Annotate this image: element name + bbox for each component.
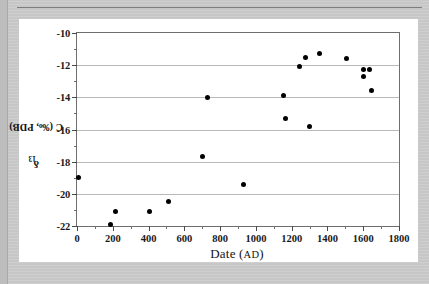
x-axis-tick-label: 1800 [389, 233, 410, 244]
data-point [166, 199, 171, 204]
y-axis-tick-label: -18 [57, 156, 70, 167]
y-axis-tick [72, 130, 77, 131]
y-axis-tick-label: -22 [57, 221, 70, 232]
gridline [77, 194, 399, 195]
data-point [344, 56, 349, 61]
y-axis-minor-tick [74, 113, 77, 114]
data-point [361, 67, 366, 72]
x-axis-minor-tick [381, 226, 382, 229]
y-axis-tick-label: -10 [57, 28, 70, 39]
x-axis-minor-tick [131, 226, 132, 229]
y-axis-tick [72, 65, 77, 66]
x-axis-title-close: ) [259, 246, 264, 261]
figure-panel: δ13C (‰, PDB) -10-12-14-16-18-20-22 0200… [19, 19, 418, 262]
y-axis-title: δ13C (‰, PDB) [27, 79, 41, 189]
y-axis-title-suffix: C (‰, PDB) [8, 122, 62, 133]
y-axis-tick [72, 33, 77, 34]
y-axis-minor-tick [74, 210, 77, 211]
x-axis-tick [149, 226, 150, 231]
x-axis-tick-label: 400 [141, 233, 157, 244]
x-axis-tick [113, 226, 114, 231]
page-canvas: δ13C (‰, PDB) -10-12-14-16-18-20-22 0200… [0, 0, 429, 284]
y-axis-tick-label: -14 [57, 92, 70, 103]
x-axis-tick [220, 226, 221, 231]
x-axis-tick-label: 0 [74, 233, 79, 244]
x-axis-minor-tick [95, 226, 96, 229]
data-point [205, 95, 210, 100]
data-point [297, 64, 302, 69]
y-axis-title-text: δ13C (‰, PDB) [27, 101, 41, 168]
y-axis-tick-label: -12 [57, 60, 70, 71]
y-axis-tick-label: -16 [57, 124, 70, 135]
x-axis-tick [184, 226, 185, 231]
data-point [113, 209, 118, 214]
x-axis-tick-label: 1400 [317, 233, 338, 244]
gridline [77, 97, 399, 98]
x-axis-minor-tick [345, 226, 346, 229]
y-axis-tick [72, 162, 77, 163]
data-point [369, 88, 374, 93]
data-point [307, 124, 312, 129]
x-axis-tick-label: 1000 [245, 233, 266, 244]
gridline [77, 65, 399, 66]
x-axis-tick [256, 226, 257, 231]
data-point [283, 116, 288, 121]
data-point [108, 222, 113, 227]
page-left-gutter [0, 0, 8, 284]
y-axis-title-superscript: 13 [28, 154, 36, 163]
data-point [317, 51, 322, 56]
data-point [303, 55, 308, 60]
x-axis-tick [363, 226, 364, 231]
page-top-rule [17, 7, 422, 8]
x-axis-title-main: Date ( [210, 246, 243, 261]
data-point [147, 209, 152, 214]
x-axis-tick [399, 226, 400, 231]
x-axis-minor-tick [166, 226, 167, 229]
y-axis-tick [72, 194, 77, 195]
x-axis-title: Date (AD) [76, 246, 398, 262]
x-axis-title-small: AD [244, 249, 260, 260]
data-point [76, 175, 81, 180]
x-axis-tick-label: 1200 [281, 233, 302, 244]
gridline [77, 130, 399, 131]
x-axis-minor-tick [274, 226, 275, 229]
x-axis-minor-tick [202, 226, 203, 229]
x-axis-minor-tick [310, 226, 311, 229]
data-point [200, 154, 205, 159]
y-axis-minor-tick [74, 49, 77, 50]
x-axis-tick [77, 226, 78, 231]
gridline [77, 162, 399, 163]
y-axis-tick [72, 97, 77, 98]
data-point [361, 74, 366, 79]
y-axis-tick-label: -20 [57, 188, 70, 199]
x-axis-tick-label: 800 [212, 233, 228, 244]
x-axis-tick [292, 226, 293, 231]
data-point [241, 182, 246, 187]
x-axis-tick-label: 1600 [353, 233, 374, 244]
x-axis-tick-label: 600 [176, 233, 192, 244]
x-axis-minor-tick [238, 226, 239, 229]
data-point [367, 67, 372, 72]
y-axis-minor-tick [74, 146, 77, 147]
plot-area: -10-12-14-16-18-20-22 020040060080010001… [76, 32, 400, 227]
y-axis-minor-tick [74, 81, 77, 82]
x-axis-tick-label: 200 [105, 233, 121, 244]
x-axis-tick [327, 226, 328, 231]
